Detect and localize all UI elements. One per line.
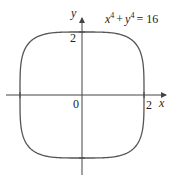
- y-tick-label-2: 2: [70, 31, 76, 45]
- y-axis-label: y: [70, 6, 77, 20]
- superellipse-plot: y x 2 2 0 x4+y4= 16: [0, 0, 177, 184]
- x-tick-label-2: 2: [146, 98, 152, 112]
- x-axis-label: x: [158, 96, 165, 110]
- origin-label: 0: [73, 97, 79, 111]
- equation-label: x4+y4= 16: [104, 11, 158, 26]
